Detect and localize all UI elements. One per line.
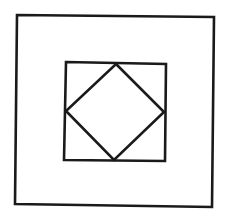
inner-square xyxy=(64,62,166,161)
inscribed-diamond xyxy=(66,64,164,160)
nested-squares-diagram xyxy=(0,0,227,222)
outer-square xyxy=(15,15,214,207)
